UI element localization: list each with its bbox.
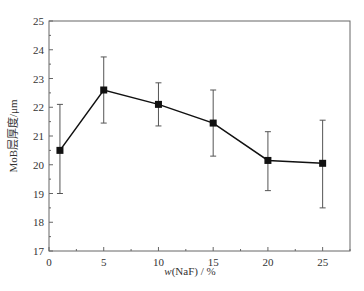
error-bars — [57, 57, 326, 208]
x-tick-label: 10 — [153, 256, 165, 268]
square-marker — [319, 160, 326, 167]
y-tick-label: 20 — [33, 159, 45, 171]
square-marker — [100, 87, 107, 94]
y-axis-ticks: 171819202122232425 — [33, 15, 53, 257]
square-marker — [56, 147, 63, 154]
square-marker — [210, 120, 217, 127]
y-tick-label: 17 — [33, 245, 45, 257]
data-line — [60, 90, 323, 163]
y-tick-label: 21 — [33, 130, 44, 142]
y-tick-label: 23 — [33, 73, 45, 85]
y-tick-label: 19 — [33, 188, 45, 200]
x-axis-label-rest: (NaF) / % — [172, 265, 216, 278]
y-tick-label: 22 — [33, 101, 44, 113]
plot-border — [49, 21, 350, 251]
line-chart: 171819202122232425 0510152025 MoB层厚度/μm … — [0, 0, 364, 291]
y-tick-label: 18 — [33, 216, 45, 228]
plot-frame — [49, 21, 350, 251]
chart-container: 171819202122232425 0510152025 MoB层厚度/μm … — [0, 0, 364, 291]
y-axis-label: MoB层厚度/μm — [6, 99, 19, 173]
series-line — [60, 90, 323, 163]
x-tick-label: 25 — [317, 256, 329, 268]
x-tick-label: 5 — [101, 256, 107, 268]
y-tick-label: 25 — [33, 15, 45, 27]
square-marker — [264, 157, 271, 164]
square-marker — [155, 101, 162, 108]
y-tick-label: 24 — [33, 44, 45, 56]
x-axis-label: w(NaF) / % — [164, 265, 215, 278]
x-tick-label: 0 — [46, 256, 52, 268]
x-tick-label: 20 — [262, 256, 274, 268]
